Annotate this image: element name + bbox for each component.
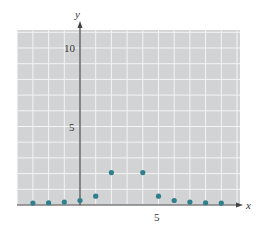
data-point [187, 199, 192, 204]
y-tick-label-10: 10 [64, 42, 76, 54]
data-point [219, 201, 224, 206]
data-point [30, 201, 35, 206]
data-point [62, 199, 67, 204]
grid-background [17, 30, 240, 205]
x-tick-label-5: 5 [154, 211, 160, 223]
data-point [172, 198, 177, 203]
data-point [156, 194, 161, 199]
y-tick-label-5: 5 [69, 121, 75, 133]
data-point [203, 200, 208, 205]
data-point [46, 200, 51, 205]
y-axis-arrow-icon [78, 21, 83, 28]
y-axis-label: y [74, 8, 80, 20]
scatter-chart: x y 5 5 10 [0, 0, 264, 231]
data-point [140, 170, 145, 175]
data-point [77, 198, 82, 203]
data-point [93, 194, 98, 199]
x-axis-label: x [245, 199, 251, 211]
data-point [109, 170, 114, 175]
